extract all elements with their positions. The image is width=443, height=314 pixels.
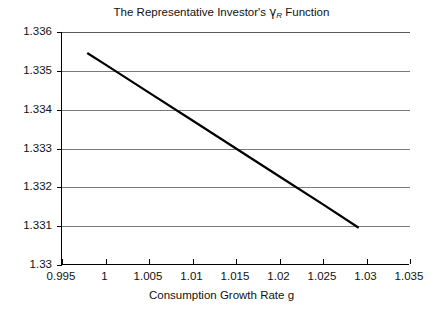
chart-title-prefix: The Representative Investor's: [114, 6, 270, 18]
chart-figure: The Representative Investor's γR Functio…: [0, 0, 443, 314]
x-tick-label: 1.035: [395, 271, 424, 283]
y-tick-label: 1.332: [23, 181, 52, 193]
x-tick-label: 1.005: [134, 271, 163, 283]
y-tick-label: 1.336: [23, 26, 52, 38]
y-tick-label: 1.33: [30, 259, 52, 271]
x-tick-mark: [410, 259, 411, 264]
x-tick-label: 1.01: [180, 271, 202, 283]
x-tick-label: 1.025: [308, 271, 337, 283]
y-tick-label: 1.333: [23, 143, 52, 155]
y-tick-mark: [57, 265, 62, 266]
chart-title: The Representative Investor's γR Functio…: [0, 5, 443, 20]
x-tick-label: 1.015: [221, 271, 250, 283]
plot-area: [61, 32, 409, 265]
x-axis-title: Consumption Growth Rate g: [0, 289, 443, 301]
chart-title-suffix: Function: [282, 6, 329, 18]
x-axis-tick-labels: 0.99511.0051.011.0151.021.0251.031.035: [61, 271, 409, 287]
y-tick-label: 1.331: [23, 220, 52, 232]
series-line: [62, 32, 410, 265]
x-tick-label: 1.03: [354, 271, 376, 283]
y-axis-tick-labels: 1.331.3311.3321.3331.3341.3351.336: [0, 32, 52, 265]
x-tick-label: 0.995: [47, 271, 76, 283]
x-tick-label: 1: [101, 271, 107, 283]
y-tick-label: 1.335: [23, 65, 52, 77]
x-tick-label: 1.02: [267, 271, 289, 283]
y-tick-label: 1.334: [23, 104, 52, 116]
